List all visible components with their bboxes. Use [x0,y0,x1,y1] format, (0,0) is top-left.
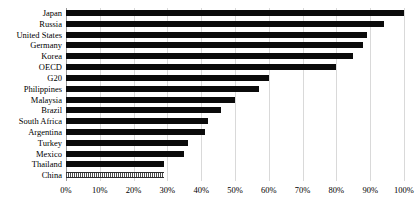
category-label: Philippines [0,84,62,95]
gridline-100 [404,8,405,181]
bar [66,161,164,167]
category-label: Thailand [0,159,62,170]
value-tick-label: 30% [160,183,176,197]
bar-row [66,40,404,51]
bar [66,97,235,103]
value-tick-label: 90% [362,183,378,197]
category-label: Korea [0,51,62,62]
bar [66,75,269,81]
category-label: Mexico [0,149,62,160]
bar-row [66,127,404,138]
value-tick-label: 70% [295,183,311,197]
category-label: Japan [0,8,62,19]
bar [66,64,336,70]
bar-row [66,19,404,30]
plot-area [66,8,404,181]
value-tick-label: 10% [92,183,108,197]
bar-row [66,105,404,116]
value-tick-label: 40% [193,183,209,197]
bar-row [66,138,404,149]
bar [66,129,205,135]
bar-row [66,51,404,62]
bar [66,42,363,48]
bar-row [66,149,404,160]
category-label: Argentina [0,127,62,138]
bar [66,86,259,92]
bar [66,151,184,157]
bar-chart: JapanRussiaUnited StatesGermanyKoreaOECD… [0,0,418,205]
bar [66,140,188,146]
category-label: Malaysia [0,95,62,106]
bar-row [66,73,404,84]
value-tick-label: 0% [60,183,71,197]
bar [66,172,164,178]
bar-row [66,62,404,73]
bar [66,118,208,124]
category-label: G20 [0,73,62,84]
bar-row [66,8,404,19]
value-tick-label: 60% [261,183,277,197]
bar-series [66,8,404,181]
bar [66,21,384,27]
value-tick-label: 20% [126,183,142,197]
bar [66,53,353,59]
category-label: Turkey [0,138,62,149]
category-label: United States [0,30,62,41]
value-axis-labels: 0%10%20%30%40%50%60%70%80%90%100% [0,183,418,199]
bar-row [66,170,404,181]
value-tick-label: 80% [329,183,345,197]
value-tick-label: 100% [394,183,414,197]
category-label: OECD [0,62,62,73]
bar-row [66,159,404,170]
category-label: Brazil [0,105,62,116]
value-tick-label: 50% [227,183,243,197]
bar-row [66,95,404,106]
category-label: China [0,170,62,181]
bar-row [66,84,404,95]
bar [66,107,221,113]
category-label: South Africa [0,116,62,127]
bar [66,10,404,16]
bar [66,32,367,38]
category-axis-labels: JapanRussiaUnited StatesGermanyKoreaOECD… [0,8,62,181]
bar-row [66,116,404,127]
category-label: Germany [0,40,62,51]
bar-row [66,30,404,41]
category-label: Russia [0,19,62,30]
